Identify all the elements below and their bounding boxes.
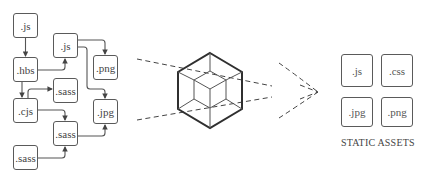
node-label: .js (20, 20, 30, 32)
node-sass-mid: .sass (53, 121, 78, 146)
dash-bottom-line (137, 97, 272, 120)
static-assets-caption: STATIC ASSETS (341, 137, 415, 148)
node-label: .sass (55, 85, 75, 97)
flow-dashes (137, 59, 318, 120)
node-label: .sass (55, 128, 75, 140)
node-sass-bottom: .sass (13, 145, 38, 170)
node-label: .hbs (16, 64, 34, 76)
asset-js: .js (341, 54, 373, 87)
asset-jpg: .jpg (341, 97, 373, 127)
node-cjs: .cjs (13, 98, 38, 123)
node-label: .js (60, 40, 70, 52)
node-label: .png (96, 62, 115, 74)
node-js-mid: .js (53, 33, 78, 58)
node-hbs: .hbs (13, 57, 38, 82)
dash-arrow-lower (279, 92, 318, 118)
asset-label: .jpg (349, 106, 366, 118)
dash-arrow-upper (279, 63, 318, 92)
edge-hbs-js (38, 59, 65, 70)
edge-cjs-sass-top (28, 89, 52, 98)
edge-sass-sass (38, 147, 65, 158)
node-label: .cjs (18, 105, 33, 117)
asset-css: .css (381, 54, 413, 87)
asset-label: .js (352, 65, 362, 77)
edge-cjs-sass-mid (38, 110, 65, 120)
asset-label: .css (389, 65, 405, 77)
dash-top-line (137, 59, 272, 86)
node-png: .png (93, 55, 118, 80)
asset-label: .png (387, 106, 406, 118)
asset-png: .png (381, 97, 413, 127)
cube-icon (178, 53, 242, 128)
node-jpg: .jpg (93, 99, 118, 124)
edge-sass-jpg (78, 125, 105, 136)
node-sass-top: .sass (53, 78, 78, 103)
node-label: .sass (15, 152, 35, 164)
node-js-entry: .js (13, 13, 38, 38)
bundler-diagram: .js .hbs .cjs .sass .js .sass .sass .png… (0, 0, 423, 181)
dash-arrow-head (300, 85, 318, 99)
node-label: .jpg (97, 106, 114, 118)
